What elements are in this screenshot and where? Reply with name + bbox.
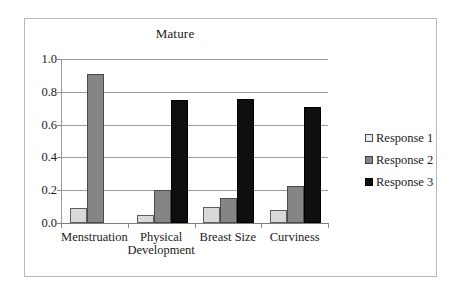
x-axis-tick — [261, 223, 262, 228]
bar — [203, 207, 220, 223]
legend-label: Response 2 — [376, 153, 433, 168]
legend-item[interactable]: Response 1 — [365, 129, 450, 147]
bar — [87, 74, 104, 223]
y-axis-tick-label: 0.6 — [27, 119, 57, 132]
y-axis-tick-label: 1.0 — [27, 53, 57, 66]
bar — [171, 100, 188, 223]
x-axis-label: Curviness — [253, 231, 336, 244]
y-axis-tick — [57, 59, 61, 60]
legend-swatch-icon — [365, 178, 373, 186]
bar — [304, 107, 321, 223]
bar — [237, 99, 254, 223]
x-axis-tick — [328, 223, 329, 228]
bar — [70, 208, 87, 223]
chart-title: Mature — [25, 26, 325, 42]
x-axis-label-line: Development — [120, 244, 203, 257]
bar — [220, 198, 237, 223]
x-axis-label-line: Curviness — [253, 231, 336, 244]
x-axis-tick — [128, 223, 129, 228]
y-axis-tick — [57, 157, 61, 158]
chart-figure: Mature 0.00.20.40.60.81.0 MenstruationPh… — [24, 18, 437, 277]
legend-item[interactable]: Response 3 — [365, 173, 450, 191]
legend-swatch-icon — [365, 156, 373, 164]
legend-label: Response 1 — [376, 131, 433, 146]
chart-legend: Response 1Response 2Response 3 — [365, 129, 450, 195]
y-axis-tick-label: 0.4 — [27, 151, 57, 164]
gridline — [61, 59, 328, 60]
y-axis-tick — [57, 190, 61, 191]
y-axis-tick-label: 0.8 — [27, 86, 57, 99]
y-axis-tick — [57, 125, 61, 126]
plot-area — [61, 59, 328, 223]
bar — [270, 210, 287, 223]
bar — [154, 190, 171, 223]
y-axis-tick-label: 0.0 — [27, 217, 57, 230]
bar — [287, 186, 304, 223]
x-axis-tick — [195, 223, 196, 228]
x-axis-tick — [61, 223, 62, 228]
legend-swatch-icon — [365, 134, 373, 142]
y-axis-tick-label: 0.2 — [27, 184, 57, 197]
y-axis-line — [61, 59, 62, 223]
legend-item[interactable]: Response 2 — [365, 151, 450, 169]
legend-label: Response 3 — [376, 175, 433, 190]
bar — [137, 215, 154, 223]
y-axis-tick — [57, 92, 61, 93]
